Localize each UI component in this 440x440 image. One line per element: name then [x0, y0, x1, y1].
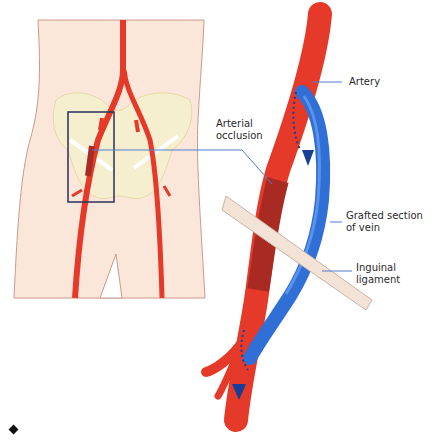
- occlusion-mark: [88, 146, 92, 176]
- label-arterial-occlusion: Arterial occlusion: [216, 118, 263, 142]
- left-branch: [100, 118, 102, 130]
- label-grafted-vein: Grafted section of vein: [346, 210, 423, 234]
- label-inguinal-ligament: Inguinal ligament: [356, 262, 400, 286]
- right-branch: [136, 120, 138, 132]
- label-artery: Artery: [349, 76, 380, 88]
- body-overview: [14, 20, 205, 298]
- flow-arrow-top-icon: [302, 150, 314, 166]
